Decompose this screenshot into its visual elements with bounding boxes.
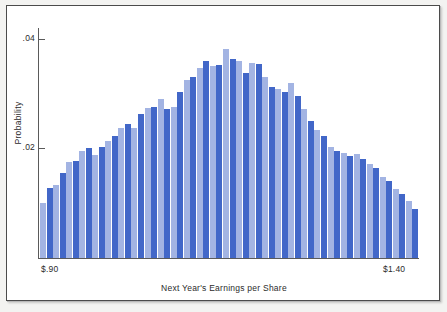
histogram-bar bbox=[203, 61, 209, 258]
histogram-bar bbox=[269, 87, 275, 258]
x-axis-min-label: $.90 bbox=[41, 264, 58, 274]
histogram-bars bbox=[40, 28, 419, 258]
y-axis-tick-label: .04 bbox=[7, 33, 35, 43]
histogram-bar bbox=[138, 114, 144, 258]
histogram-bar bbox=[334, 151, 340, 258]
histogram-bar bbox=[92, 155, 98, 258]
histogram-bar bbox=[262, 77, 268, 258]
histogram-bar bbox=[243, 73, 249, 258]
x-axis-title: Next Year's Earnings per Share bbox=[7, 283, 441, 293]
histogram-bar bbox=[197, 68, 203, 258]
histogram-bar bbox=[105, 141, 111, 258]
histogram-bar bbox=[99, 147, 105, 258]
histogram-bar bbox=[145, 108, 151, 258]
histogram-bar bbox=[386, 181, 392, 258]
histogram-bar bbox=[256, 64, 262, 258]
histogram-bar bbox=[347, 156, 353, 258]
histogram-bar bbox=[236, 61, 242, 258]
histogram-bar bbox=[295, 96, 301, 258]
histogram-bar bbox=[328, 147, 334, 258]
histogram-bar bbox=[354, 154, 360, 258]
histogram-bar bbox=[288, 83, 294, 258]
histogram-bar bbox=[60, 173, 66, 258]
histogram-bar bbox=[53, 185, 59, 258]
histogram-bar bbox=[118, 128, 124, 258]
histogram-bar bbox=[164, 109, 170, 259]
figure-canvas: Probability .04.02 $.90 $1.40 Next Year'… bbox=[0, 0, 447, 312]
histogram-bar bbox=[177, 92, 183, 258]
histogram-bar bbox=[47, 188, 53, 258]
x-axis-line bbox=[38, 258, 419, 259]
histogram-bar bbox=[171, 107, 177, 258]
histogram-bar bbox=[131, 128, 137, 258]
histogram-bar bbox=[86, 148, 92, 258]
histogram-bar bbox=[282, 92, 288, 258]
histogram-bar bbox=[321, 136, 327, 258]
histogram-bar bbox=[190, 77, 196, 258]
histogram-bar bbox=[223, 49, 229, 258]
histogram-bar bbox=[301, 109, 307, 258]
y-axis-line bbox=[38, 28, 39, 259]
histogram-bar bbox=[151, 107, 157, 258]
x-axis-max-label: $1.40 bbox=[383, 264, 405, 274]
histogram-bar bbox=[79, 151, 85, 258]
histogram-bar bbox=[399, 194, 405, 258]
histogram-bar bbox=[112, 136, 118, 258]
histogram-bar bbox=[380, 177, 386, 258]
histogram-bar bbox=[249, 63, 255, 259]
histogram-bar bbox=[125, 124, 131, 258]
histogram-bar bbox=[406, 201, 412, 258]
histogram-bar bbox=[367, 164, 373, 258]
histogram-bar bbox=[73, 161, 79, 258]
plot-region: Probability .04.02 $.90 $1.40 Next Year'… bbox=[7, 6, 441, 302]
histogram-bar bbox=[230, 59, 236, 258]
histogram-bar bbox=[314, 130, 320, 258]
chart-frame: Probability .04.02 $.90 $1.40 Next Year'… bbox=[6, 5, 440, 301]
histogram-bar bbox=[373, 168, 379, 258]
histogram-bar bbox=[216, 65, 222, 258]
histogram-bar bbox=[158, 99, 164, 258]
histogram-bar bbox=[308, 121, 314, 258]
histogram-bar bbox=[66, 162, 72, 258]
histogram-bar bbox=[275, 89, 281, 258]
histogram-bar bbox=[412, 209, 418, 258]
histogram-bar bbox=[341, 153, 347, 258]
histogram-bar bbox=[40, 203, 46, 258]
y-axis-tick-label: .02 bbox=[7, 142, 35, 152]
histogram-bar bbox=[184, 80, 190, 258]
histogram-bar bbox=[393, 189, 399, 258]
histogram-bar bbox=[360, 159, 366, 258]
histogram-bar bbox=[210, 66, 216, 258]
